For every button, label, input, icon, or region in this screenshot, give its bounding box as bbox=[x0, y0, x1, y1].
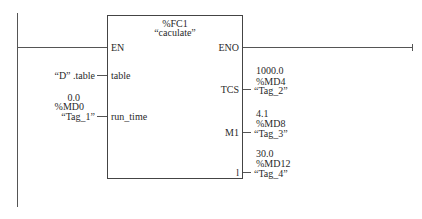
function-block-fc1[interactable] bbox=[107, 15, 243, 179]
pin-run-time: run_time bbox=[111, 111, 147, 122]
block-name: “caculate” bbox=[107, 27, 243, 38]
pin-eno: ENO bbox=[200, 42, 239, 53]
pin-l: l bbox=[200, 167, 239, 178]
operand-run-time-symbol[interactable]: “Tag_1” bbox=[20, 111, 95, 122]
l-wire bbox=[243, 172, 251, 173]
left-power-rail bbox=[17, 13, 18, 207]
operand-tcs-symbol[interactable]: “Tag_2” bbox=[254, 85, 288, 96]
table-wire bbox=[97, 75, 107, 76]
en-wire bbox=[17, 47, 107, 48]
pin-en: EN bbox=[111, 42, 124, 53]
operand-tcs-value: 1000.0 bbox=[256, 65, 284, 76]
tcs-wire bbox=[243, 89, 251, 90]
coil-end-marker bbox=[412, 44, 413, 51]
operand-table-symbol[interactable]: “D” .table bbox=[20, 70, 95, 81]
operand-l-symbol[interactable]: “Tag_4” bbox=[254, 168, 288, 179]
pin-tcs: TCS bbox=[200, 84, 239, 95]
run-time-wire bbox=[97, 116, 107, 117]
operand-m1-symbol[interactable]: “Tag_3” bbox=[254, 128, 288, 139]
eno-wire bbox=[243, 47, 412, 48]
m1-wire bbox=[243, 132, 251, 133]
pin-m1: M1 bbox=[200, 127, 239, 138]
pin-table: table bbox=[111, 70, 130, 81]
